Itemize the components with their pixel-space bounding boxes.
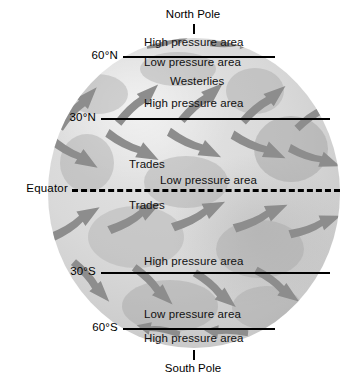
latitude-line-30n [101, 118, 330, 120]
south-pole-label: South Pole [143, 362, 243, 374]
band-label-subtropical-high-north: High pressure area [144, 97, 244, 109]
landmass-blob [254, 116, 328, 182]
band-label-westerlies-north: Westerlies [170, 75, 224, 87]
landmass-blob [60, 134, 114, 192]
wind-arrow-polar-north [269, 38, 315, 61]
band-label-trades-south: Trades [129, 199, 165, 211]
wind-belts-diagram: North Pole 60°N 30°N Equator 30°S 60°S H… [0, 0, 357, 381]
latitude-label-30s: 30°S [36, 265, 96, 277]
band-label-subtropical-high-south: High pressure area [144, 255, 244, 267]
band-label-polar-high-south: High pressure area [144, 332, 244, 344]
north-pole-tick [193, 24, 195, 34]
landmass-blob [232, 286, 302, 330]
landmass-blob [122, 280, 218, 332]
landmass-blob [216, 220, 304, 278]
latitude-label-30n: 30°N [36, 111, 96, 123]
latitude-label-equator: Equator [0, 182, 68, 194]
band-label-equatorial-low: Low pressure area [160, 174, 257, 186]
latitude-label-60n: 60°N [58, 49, 118, 61]
north-pole-label: North Pole [143, 8, 243, 20]
latitude-label-60s: 60°S [58, 321, 118, 333]
band-label-trades-north: Trades [129, 158, 165, 170]
band-label-subpolar-low-south: Low pressure area [144, 308, 241, 320]
latitude-line-60s [123, 328, 275, 330]
landmass-blob [66, 74, 128, 114]
equator-line [72, 189, 340, 192]
band-label-polar-high-north: High pressure area [144, 36, 244, 48]
south-pole-tick [193, 350, 195, 360]
band-label-subpolar-low-north: Low pressure area [144, 56, 241, 68]
latitude-line-30s [101, 272, 330, 274]
